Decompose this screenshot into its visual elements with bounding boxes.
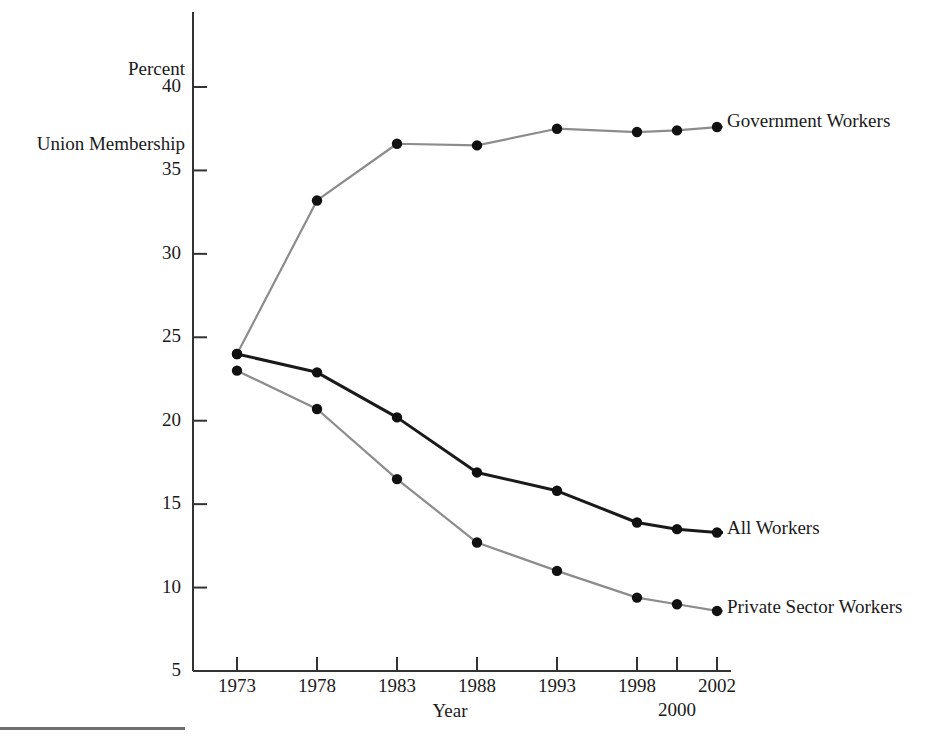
data-point-marker (392, 412, 402, 422)
series-label-private-sector-workers: Private Sector Workers (727, 596, 902, 618)
data-point-marker (392, 474, 402, 484)
data-point-marker (632, 127, 642, 137)
series-2 (232, 349, 723, 538)
data-point-marker (672, 599, 682, 609)
data-point-marker (712, 527, 722, 537)
data-point-marker (552, 566, 562, 576)
data-point-marker (472, 537, 482, 547)
data-point-marker (552, 486, 562, 496)
data-point-marker (672, 524, 682, 534)
series-line (237, 371, 717, 611)
data-point-marker (672, 125, 682, 135)
series-3 (232, 365, 723, 616)
series-label-all-workers: All Workers (727, 517, 820, 539)
data-point-marker (232, 365, 242, 375)
series-line (237, 354, 717, 533)
series-1 (232, 122, 723, 359)
data-point-marker (632, 592, 642, 602)
scan-artifact-rule (0, 727, 185, 730)
data-point-marker (392, 139, 402, 149)
data-point-marker (552, 124, 562, 134)
data-point-marker (312, 195, 322, 205)
data-point-marker (632, 517, 642, 527)
data-point-marker (232, 349, 242, 359)
data-point-marker (712, 606, 722, 616)
data-point-marker (472, 140, 482, 150)
data-point-marker (712, 122, 722, 132)
series-line (237, 127, 717, 354)
data-point-marker (312, 404, 322, 414)
data-point-marker (472, 467, 482, 477)
union-membership-line-chart: Percent Union Membership 403530252015105… (0, 0, 948, 741)
data-point-marker (312, 367, 322, 377)
series-label-government-workers: Government Workers (727, 110, 890, 132)
